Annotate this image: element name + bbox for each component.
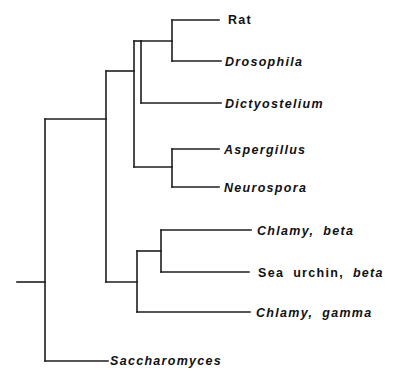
taxon-isoform: gamma: [322, 306, 372, 320]
taxon-label-sea-urchin-beta: Seaurchin,beta: [258, 266, 384, 280]
taxon-isoform: beta: [353, 266, 384, 280]
taxon-label-rat: Rat: [228, 13, 252, 27]
taxon-genus: Chlamy,: [257, 224, 314, 238]
taxon-label-aspergillus: Aspergillus: [224, 143, 306, 157]
taxon-isoform: beta: [323, 224, 354, 238]
taxon-name: Saccharomyces: [110, 354, 222, 368]
taxon-name: Aspergillus: [224, 143, 306, 157]
taxon-name: Rat: [228, 13, 252, 27]
taxon-label-dictyostelium: Dictyostelium: [225, 97, 324, 111]
taxon-label-chlamy-beta: Chlamy,beta: [257, 224, 354, 238]
taxon-name-part: Sea: [258, 266, 284, 280]
taxon-name: Dictyostelium: [225, 97, 324, 111]
taxon-genus: Chlamy,: [256, 306, 313, 320]
taxon-label-saccharomyces: Saccharomyces: [110, 354, 222, 368]
taxon-label-neurospora: Neurospora: [224, 181, 307, 195]
taxon-name: Drosophila: [225, 55, 303, 69]
taxon-label-drosophila: Drosophila: [225, 55, 303, 69]
taxon-label-chlamy-gamma: Chlamy,gamma: [256, 306, 373, 320]
taxon-name-part: urchin,: [293, 266, 344, 280]
taxon-name: Neurospora: [224, 181, 307, 195]
phylogenetic-tree: [0, 0, 402, 381]
